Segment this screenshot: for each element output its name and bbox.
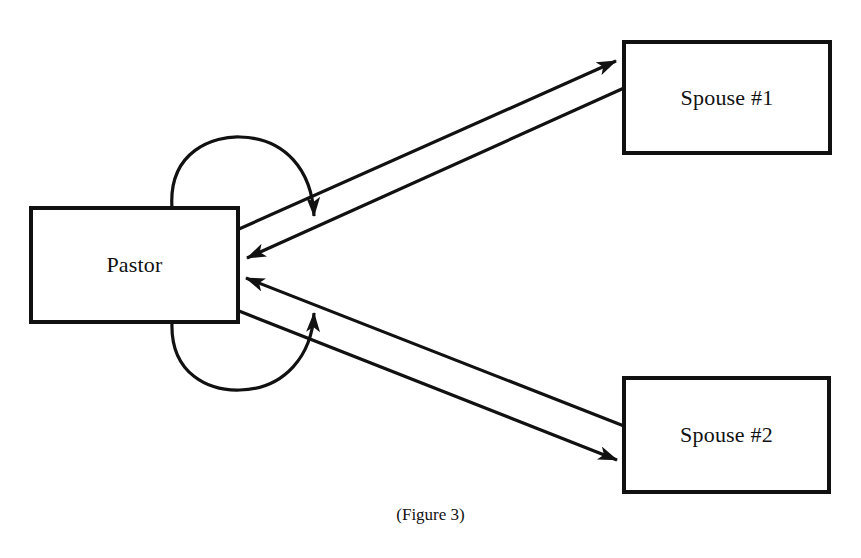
spouse1-label: Spouse #1 xyxy=(681,85,774,111)
pastor-node: Pastor xyxy=(29,206,240,324)
spouse1-node: Spouse #1 xyxy=(622,40,832,155)
arrow-pastor-to-spouse1 xyxy=(239,61,616,229)
pastor-label: Pastor xyxy=(106,252,162,278)
arrow-pastor-to-spouse2 xyxy=(239,311,617,460)
self-loop-bottom-arrow xyxy=(172,313,314,390)
spouse2-label: Spouse #2 xyxy=(680,422,773,448)
figure-caption: (Figure 3) xyxy=(0,505,861,525)
spouse2-node: Spouse #2 xyxy=(622,376,831,494)
